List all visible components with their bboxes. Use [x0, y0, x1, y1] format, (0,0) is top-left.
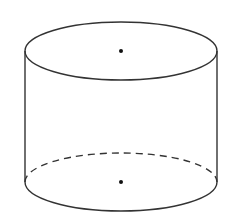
- bottom-base-hidden-arc: [25, 153, 217, 182]
- cylinder-diagram: [0, 0, 235, 223]
- bottom-base-front-arc: [25, 182, 217, 211]
- top-center-point: [119, 49, 123, 53]
- bottom-center-point: [119, 180, 123, 184]
- cylinder-figure: [0, 0, 235, 223]
